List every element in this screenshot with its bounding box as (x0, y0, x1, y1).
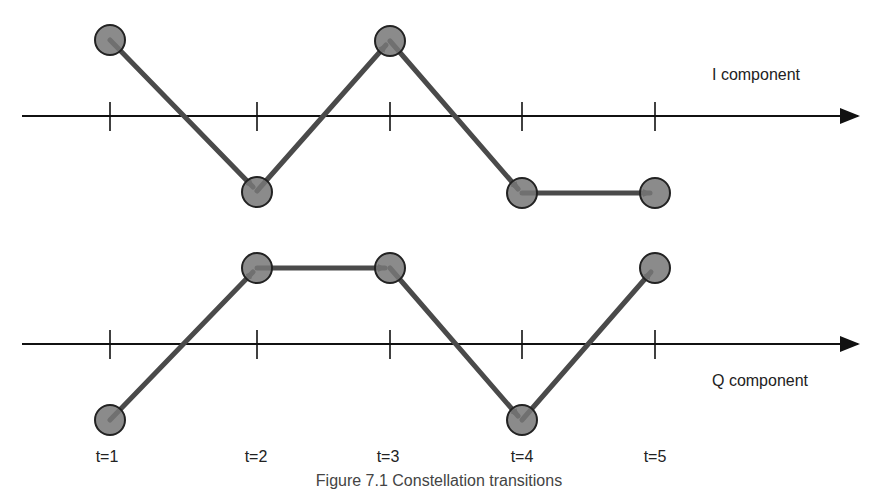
q-component-label: Q component (712, 372, 808, 390)
q-point-t3 (375, 253, 405, 283)
time-label-t1: t=1 (96, 448, 119, 466)
i-point-t2 (242, 177, 272, 207)
time-label-t5: t=5 (644, 448, 667, 466)
q-axis (22, 330, 858, 359)
time-label-t3: t=3 (377, 448, 400, 466)
i-point-t4 (507, 178, 537, 208)
time-label-t4: t=4 (511, 448, 534, 466)
i-point-t5 (640, 178, 670, 208)
q-point-t1 (95, 405, 125, 435)
i-point-t1 (95, 25, 125, 55)
q-point-t4 (507, 405, 537, 435)
time-label-t2: t=2 (245, 448, 268, 466)
figure-caption: Figure 7.1 Constellation transitions (0, 472, 878, 490)
i-component-label: I component (712, 66, 800, 84)
q-point-t2 (242, 253, 272, 283)
q-point-t5 (640, 253, 670, 283)
i-axis (22, 102, 858, 131)
i-point-t3 (375, 26, 405, 56)
